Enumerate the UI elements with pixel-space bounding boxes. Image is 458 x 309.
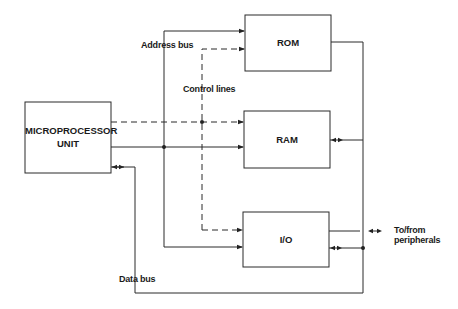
peripherals-label-line2: peripherals xyxy=(394,235,440,245)
block-diagram xyxy=(0,0,458,309)
address-junction xyxy=(162,145,166,149)
address-bus xyxy=(111,31,244,247)
peripherals-label: To/from peripherals xyxy=(394,225,440,245)
mpu-label: MICROPROCESSOR UNIT xyxy=(25,124,111,150)
address-bus-label: Address bus xyxy=(141,40,193,50)
peripherals-label-line1: To/from xyxy=(394,225,425,235)
control-lines-label: Control lines xyxy=(183,84,235,94)
ram-label: RAM xyxy=(244,133,330,146)
io-label: I/O xyxy=(243,233,329,246)
data-junction xyxy=(361,246,365,250)
data-bus-label: Data bus xyxy=(119,274,155,284)
mpu-label-line1: MICROPROCESSOR xyxy=(25,125,117,136)
control-lines xyxy=(111,49,244,230)
rom-label: ROM xyxy=(245,36,331,49)
mpu-label-line2: UNIT xyxy=(57,138,79,149)
control-junction xyxy=(200,120,204,124)
